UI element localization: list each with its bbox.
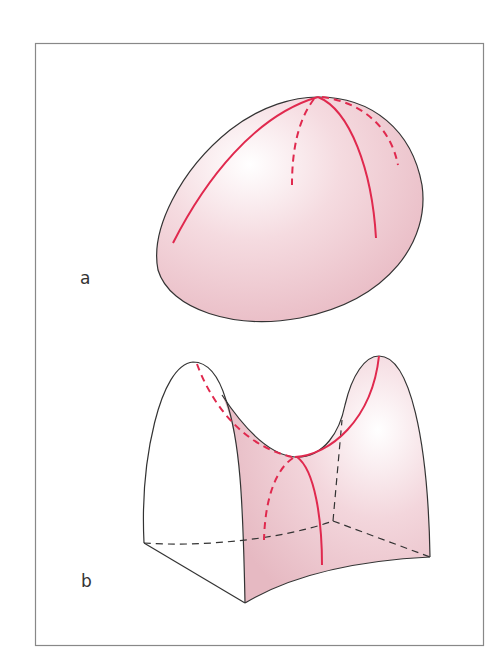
panel-label-a: a (80, 268, 90, 288)
panel-a-ellipsoid (157, 97, 423, 321)
saddle-left-face (143, 362, 245, 603)
ellipsoid-surface (157, 97, 423, 321)
saddle-surface (222, 356, 430, 603)
panel-b-saddle (143, 356, 430, 603)
figure-canvas (0, 0, 502, 666)
panel-label-b: b (81, 571, 92, 591)
